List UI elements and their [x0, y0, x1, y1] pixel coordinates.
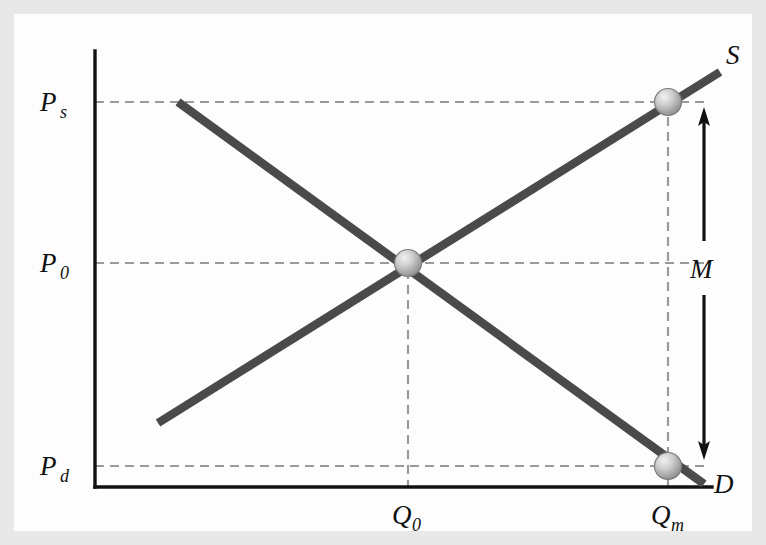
y-label-pd-base: P — [39, 451, 57, 481]
curve-labels: S D M — [689, 40, 740, 499]
supply-curve-label: S — [726, 40, 740, 70]
y-label-ps: P s — [39, 87, 67, 122]
marker-demand-price — [655, 453, 682, 480]
demand-curve-label: D — [713, 469, 734, 499]
curves — [158, 72, 720, 484]
marker-supply-price — [655, 89, 682, 116]
y-label-p0-base: P — [39, 248, 57, 278]
gridlines — [95, 102, 704, 487]
marker-equilibrium — [395, 250, 422, 277]
demand-curve — [178, 102, 704, 484]
x-label-qm-sub: m — [671, 515, 684, 531]
supply-demand-chart: P s P 0 P d Q 0 Q — [14, 14, 752, 531]
x-label-q0-sub: 0 — [412, 515, 421, 531]
y-label-p0: P 0 — [39, 248, 69, 283]
x-label-qm-base: Q — [651, 500, 671, 530]
data-point-markers — [395, 89, 682, 480]
y-label-p0-sub: 0 — [60, 263, 69, 283]
figure-root: P s P 0 P d Q 0 Q — [0, 0, 766, 545]
y-label-pd: P d — [39, 451, 70, 486]
supply-curve — [158, 72, 720, 423]
markup-annotation-label: M — [689, 254, 714, 284]
figure-panel: P s P 0 P d Q 0 Q — [14, 14, 752, 531]
x-axis-labels: Q 0 Q m — [392, 500, 684, 531]
x-label-q0-base: Q — [392, 500, 412, 530]
y-label-ps-base: P — [39, 87, 57, 117]
x-label-q0: Q 0 — [392, 500, 421, 531]
x-label-qm: Q m — [651, 500, 684, 531]
y-label-ps-sub: s — [60, 102, 67, 122]
y-label-pd-sub: d — [60, 466, 70, 486]
y-axis-labels: P s P 0 P d — [39, 87, 70, 486]
